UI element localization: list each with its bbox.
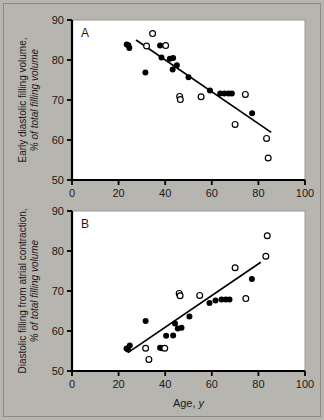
y-tick-label: 70 <box>52 94 64 106</box>
data-point-open <box>242 92 248 98</box>
data-point-open <box>265 155 271 161</box>
data-point-filled <box>172 320 178 326</box>
y-axis-label-line1: Diastolic filling from atrial contractio… <box>17 208 28 373</box>
x-tick-label: 20 <box>112 378 124 390</box>
x-tick-label: 0 <box>69 378 75 390</box>
data-point-open <box>264 136 270 142</box>
data-point-filled <box>142 69 148 75</box>
data-point-open <box>177 97 183 103</box>
y-axis-label-line2: % of total filling volume <box>29 48 40 151</box>
data-point-open <box>198 94 204 100</box>
data-point-open <box>232 265 238 271</box>
data-point-filled <box>186 314 192 320</box>
data-point-open <box>264 233 270 239</box>
y-tick-label: 90 <box>52 14 64 26</box>
data-point-filled <box>163 333 169 339</box>
data-point-filled <box>227 296 233 302</box>
x-tick-label: 80 <box>252 378 264 390</box>
data-point-open <box>150 31 156 37</box>
data-point-filled <box>127 342 133 348</box>
data-point-filled <box>179 325 185 331</box>
y-tick-label: 50 <box>52 174 64 186</box>
data-point-filled <box>174 62 180 68</box>
data-point-filled <box>186 74 192 80</box>
data-point-open <box>263 253 269 259</box>
data-point-filled <box>143 318 149 324</box>
panel-b: 5060708090020406080100BDiastolic filling… <box>0 190 324 420</box>
data-point-filled <box>170 55 176 61</box>
y-tick-label: 60 <box>52 134 64 146</box>
data-point-open <box>243 296 249 302</box>
data-point-filled <box>126 45 132 51</box>
data-point-open <box>163 43 169 49</box>
data-point-open <box>144 43 150 49</box>
data-point-filled <box>158 55 164 61</box>
data-point-open <box>146 357 152 363</box>
data-point-filled <box>249 276 255 282</box>
y-tick-label: 60 <box>52 325 64 337</box>
data-point-filled <box>170 332 176 338</box>
data-point-open <box>177 293 183 299</box>
figure-container: 5060708090020406080100AEarly diastolic f… <box>0 0 324 420</box>
x-tick-label: 100 <box>296 378 314 390</box>
x-axis-label-unit: y <box>198 397 206 409</box>
data-point-filled <box>170 67 176 73</box>
y-axis-label: Early diastolic filling volume,% of tota… <box>17 37 40 162</box>
x-axis-label-main: Age, <box>173 397 199 409</box>
y-axis-label: Diastolic filling from atrial contractio… <box>17 208 40 373</box>
y-tick-label: 80 <box>52 54 64 66</box>
data-point-filled <box>213 298 219 304</box>
y-axis-label-line2: % of total filling volume <box>29 239 40 342</box>
data-point-filled <box>229 91 235 97</box>
data-point-open <box>162 345 168 351</box>
y-tick-label: 90 <box>52 205 64 217</box>
panel-letter: B <box>81 217 89 231</box>
data-point-open <box>232 122 238 128</box>
data-point-filled <box>249 110 255 116</box>
data-point-open <box>143 345 149 351</box>
y-axis-label-line1: Early diastolic filling volume, <box>17 37 28 162</box>
x-tick-label: 40 <box>159 378 171 390</box>
y-tick-label: 50 <box>52 365 64 377</box>
panel-b-plot: 5060708090020406080100BDiastolic filling… <box>0 190 324 420</box>
x-tick-label: 60 <box>206 378 218 390</box>
panel-letter: A <box>81 26 89 40</box>
y-tick-label: 80 <box>52 245 64 257</box>
x-axis-label-text: Age, y <box>173 397 206 409</box>
data-point-filled <box>206 300 212 306</box>
data-point-filled <box>207 87 213 93</box>
panel-a: 5060708090020406080100AEarly diastolic f… <box>0 0 324 200</box>
x-axis-label: Age, y <box>173 397 206 409</box>
panel-a-plot: 5060708090020406080100AEarly diastolic f… <box>0 0 324 200</box>
y-tick-label: 70 <box>52 285 64 297</box>
data-point-open <box>197 293 203 299</box>
